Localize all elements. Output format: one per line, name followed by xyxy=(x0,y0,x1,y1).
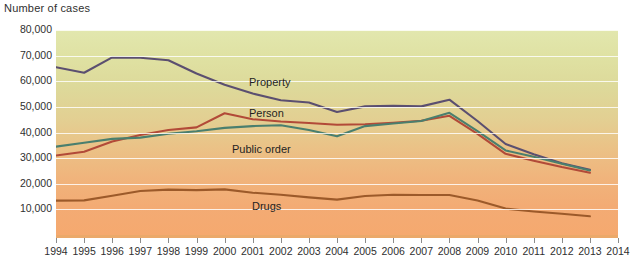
gridline xyxy=(56,133,618,134)
y-tick-label: 70,000 xyxy=(2,49,52,61)
x-tick-label: 1996 xyxy=(101,245,124,257)
y-tick-label: 40,000 xyxy=(2,126,52,138)
series-line-drugs xyxy=(56,189,590,216)
x-tick-label: 2014 xyxy=(606,245,629,257)
x-tick-label: 1997 xyxy=(129,245,152,257)
x-tick-label: 2010 xyxy=(494,245,517,257)
x-tick-mark xyxy=(281,238,282,243)
x-tick-mark xyxy=(197,238,198,243)
x-tick-mark xyxy=(534,238,535,243)
gridline xyxy=(56,158,618,159)
plot-area xyxy=(56,30,618,235)
x-tick-mark xyxy=(337,238,338,243)
x-tick-mark xyxy=(365,238,366,243)
y-tick-label: 60,000 xyxy=(2,74,52,86)
gridline xyxy=(56,81,618,82)
x-tick-label: 2004 xyxy=(325,245,348,257)
gridline xyxy=(56,209,618,210)
x-tick-label: 2008 xyxy=(438,245,461,257)
x-tick-mark xyxy=(309,238,310,243)
x-tick-label: 2011 xyxy=(522,245,545,257)
x-tick-label: 1998 xyxy=(157,245,180,257)
series-label-drugs: Drugs xyxy=(252,200,281,212)
x-tick-mark xyxy=(393,238,394,243)
x-tick-label: 2006 xyxy=(382,245,405,257)
x-tick-mark xyxy=(112,238,113,243)
gridline xyxy=(56,184,618,185)
y-tick-label: 50,000 xyxy=(2,100,52,112)
x-tick-mark xyxy=(140,238,141,243)
x-tick-label: 2000 xyxy=(213,245,236,257)
x-tick-label: 1999 xyxy=(185,245,208,257)
x-tick-label: 2002 xyxy=(269,245,292,257)
x-tick-label: 2003 xyxy=(297,245,320,257)
x-tick-label: 2007 xyxy=(410,245,433,257)
x-tick-mark xyxy=(84,238,85,243)
x-tick-mark xyxy=(478,238,479,243)
x-tick-label: 2013 xyxy=(578,245,601,257)
series-label-public-order: Public order xyxy=(232,143,291,155)
gridline xyxy=(56,56,618,57)
y-axis-title: Number of cases xyxy=(4,2,90,14)
x-tick-label: 2012 xyxy=(550,245,573,257)
series-label-person: Person xyxy=(249,107,284,119)
series-line-person xyxy=(56,113,590,172)
y-tick-label: 10,000 xyxy=(2,202,52,214)
x-tick-label: 2005 xyxy=(353,245,376,257)
line-chart: Number of cases 80,00070,00060,00050,000… xyxy=(0,0,638,264)
x-tick-mark xyxy=(253,238,254,243)
y-tick-label: 30,000 xyxy=(2,151,52,163)
x-tick-mark xyxy=(590,238,591,243)
x-tick-label: 1994 xyxy=(44,245,67,257)
series-line-public-order xyxy=(56,113,590,171)
x-tick-mark xyxy=(506,238,507,243)
x-tick-label: 2009 xyxy=(466,245,489,257)
x-tick-label: 2001 xyxy=(241,245,264,257)
x-tick-mark xyxy=(618,238,619,243)
x-tick-label: 1995 xyxy=(72,245,95,257)
series-label-property: Property xyxy=(249,76,291,88)
x-tick-mark xyxy=(56,238,57,243)
gridline xyxy=(56,107,618,108)
x-tick-mark xyxy=(449,238,450,243)
x-tick-mark xyxy=(168,238,169,243)
x-tick-mark xyxy=(421,238,422,243)
x-tick-mark xyxy=(562,238,563,243)
gridline xyxy=(56,30,618,31)
y-tick-label: 80,000 xyxy=(2,23,52,35)
series-line-property xyxy=(56,57,590,169)
x-tick-mark xyxy=(225,238,226,243)
y-tick-label: 20,000 xyxy=(2,177,52,189)
